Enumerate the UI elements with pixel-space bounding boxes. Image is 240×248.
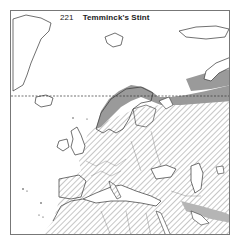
ireland	[57, 139, 69, 151]
map-frame	[10, 10, 230, 235]
map-title: 221Temminck's Stint	[60, 13, 150, 22]
great-britain	[71, 127, 85, 155]
map-number: 221	[60, 13, 74, 22]
range-map	[11, 11, 230, 235]
iceland	[35, 95, 53, 107]
species-name: Temminck's Stint	[83, 13, 150, 22]
svalbard	[105, 33, 123, 47]
arctic-islands	[179, 26, 229, 39]
greenland	[13, 15, 51, 91]
